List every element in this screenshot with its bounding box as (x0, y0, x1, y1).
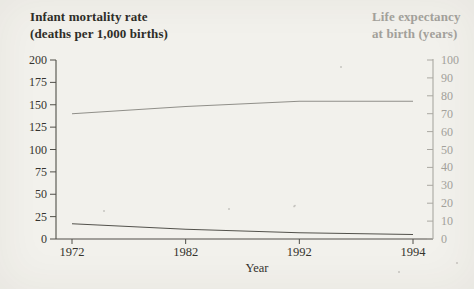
svg-text:175: 175 (29, 75, 47, 89)
svg-text:75: 75 (35, 165, 47, 179)
svg-text:100: 100 (29, 143, 47, 157)
svg-text:25: 25 (35, 210, 47, 224)
svg-text:125: 125 (29, 120, 47, 134)
svg-text:50: 50 (441, 143, 453, 157)
scan-speck (228, 208, 230, 210)
svg-text:90: 90 (441, 71, 453, 85)
x-axis-label: Year (235, 261, 279, 276)
svg-text:1992: 1992 (287, 245, 312, 259)
svg-text:80: 80 (441, 89, 453, 103)
svg-text:60: 60 (441, 125, 453, 139)
svg-text:1972: 1972 (60, 245, 85, 259)
scan-speck (340, 66, 342, 68)
scan-speck (398, 271, 400, 273)
scan-speck (456, 262, 458, 264)
svg-text:50: 50 (35, 187, 47, 201)
svg-text:1994: 1994 (401, 245, 427, 259)
svg-text:0: 0 (41, 232, 47, 246)
svg-text:20: 20 (441, 196, 453, 210)
svg-text:0: 0 (441, 232, 447, 246)
svg-text:100: 100 (441, 53, 459, 67)
svg-text:30: 30 (441, 178, 453, 192)
svg-text:40: 40 (441, 160, 453, 174)
svg-text:1982: 1982 (173, 245, 198, 259)
svg-text:150: 150 (29, 98, 47, 112)
scan-speck (103, 210, 105, 212)
svg-text:10: 10 (441, 214, 453, 228)
svg-text:70: 70 (441, 107, 453, 121)
chart-canvas: 0255075100125150175200010203040506070809… (0, 0, 474, 289)
svg-text:200: 200 (29, 53, 47, 67)
dual-axis-line-chart-figure: Infant mortality rate (deaths per 1,000 … (0, 0, 474, 289)
